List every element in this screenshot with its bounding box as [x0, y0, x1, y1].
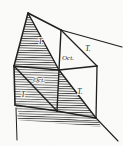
- diagram-canvas: T. Oct. T. Oct. T T.: [0, 0, 123, 146]
- geometric-diagram-figure: T. Oct. T. Oct. T T.: [0, 0, 123, 146]
- scan-grain-overlay: [0, 0, 123, 146]
